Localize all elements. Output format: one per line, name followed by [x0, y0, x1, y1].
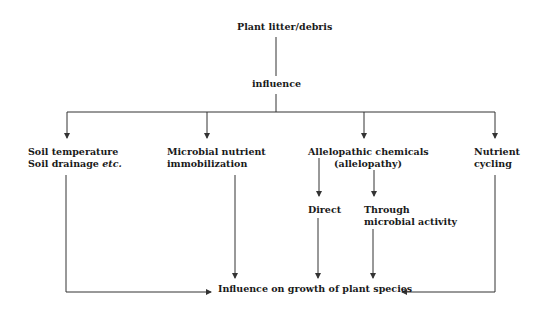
factor-microbial: Microbial nutrient immobilization — [167, 146, 266, 170]
outcome-node: Influence on growth of plant species — [218, 283, 412, 295]
factor-soil-line2: Soil drainage etc. — [28, 158, 122, 170]
factor-soil-line1: Soil temperature — [28, 146, 122, 158]
factor-soil: Soil temperature Soil drainage etc. — [28, 146, 122, 170]
factor-soil-line2-text: Soil drainage — [28, 158, 102, 169]
factor-nutrient-line1: Nutrient — [474, 146, 520, 158]
factor-allelopathic-line1: Allelopathic chemicals — [308, 146, 420, 158]
factor-allelopathic: Allelopathic chemicals (allelopathy) — [308, 146, 420, 170]
factor-allelopathic-line2: (allelopathy) — [308, 158, 420, 170]
branch-microbial-line2: microbial activity — [364, 216, 457, 228]
factor-microbial-line1: Microbial nutrient — [167, 146, 266, 158]
root-node: Plant litter/debris — [237, 21, 332, 33]
branch-microbial-line1: Through — [364, 204, 457, 216]
influence-node: influence — [252, 78, 301, 90]
factor-nutrient: Nutrient cycling — [474, 146, 520, 170]
branch-microbial-activity: Through microbial activity — [364, 204, 457, 228]
factor-microbial-line2: immobilization — [167, 158, 266, 170]
factor-nutrient-line2: cycling — [474, 158, 520, 170]
branch-direct: Direct — [308, 204, 341, 216]
flow-diagram: Plant litter/debris influence Soil tempe… — [0, 0, 538, 309]
factor-soil-etc: etc. — [102, 158, 122, 169]
